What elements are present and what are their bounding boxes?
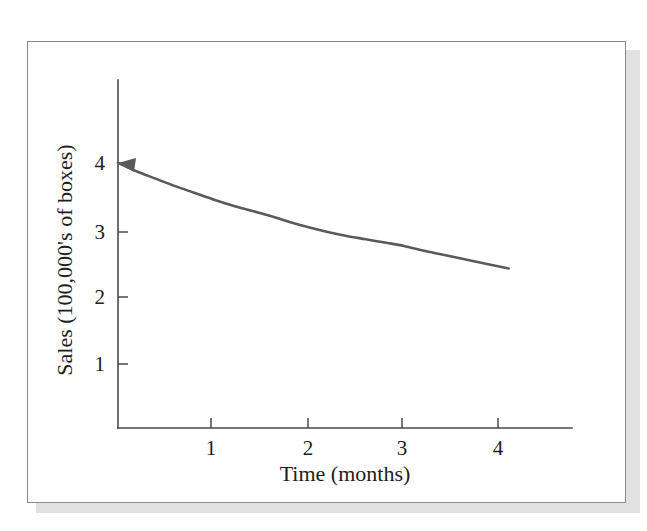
sales-decay-curve (118, 163, 509, 269)
x-tick-label-4: 4 (493, 436, 504, 460)
x-tick-label-1: 1 (206, 436, 217, 460)
y-tick-label-1: 1 (95, 352, 106, 376)
y-tick-label-4: 4 (95, 151, 106, 175)
figure-page: 1 2 3 4 1 2 3 4 Time (months) Sales (100… (0, 0, 647, 531)
x-tick-label-3: 3 (397, 436, 408, 460)
y-axis-title: Sales (100,000's of boxes) (52, 144, 77, 375)
y-tick-label-2: 2 (95, 285, 106, 309)
sales-decay-chart: 1 2 3 4 1 2 3 4 Time (months) Sales (100… (0, 0, 647, 531)
x-axis-title: Time (months) (280, 461, 411, 486)
x-tick-label-2: 2 (303, 436, 314, 460)
y-tick-label-3: 3 (95, 220, 106, 244)
